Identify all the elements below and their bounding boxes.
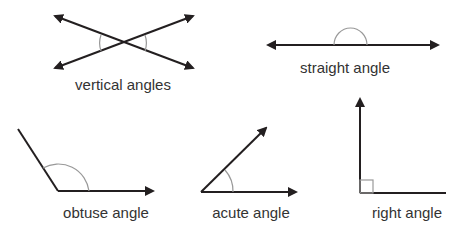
left-angle-arc [100, 35, 101, 51]
straight-angle-figure: straight angle [268, 28, 438, 76]
acute-angle-figure: acute angle [201, 128, 296, 221]
right-angle-label: right angle [372, 204, 442, 221]
angle-types-diagram: vertical angles straight angle obtuse an… [0, 0, 459, 234]
acute-ray-up [201, 128, 266, 192]
right-angle-figure: right angle [360, 99, 446, 221]
straight-angle-label: straight angle [300, 59, 390, 76]
right-angle-arc [145, 35, 146, 51]
vertical-angles-label: vertical angles [75, 76, 171, 93]
vertical-angles-figure: vertical angles [55, 16, 193, 93]
obtuse-ray-left [18, 129, 58, 191]
obtuse-angle-figure: obtuse angle [18, 129, 153, 221]
semicircle-arc [334, 28, 367, 45]
right-angle-square [360, 180, 373, 193]
acute-arc [225, 170, 233, 192]
obtuse-angle-label: obtuse angle [63, 204, 149, 221]
acute-angle-label: acute angle [212, 204, 290, 221]
